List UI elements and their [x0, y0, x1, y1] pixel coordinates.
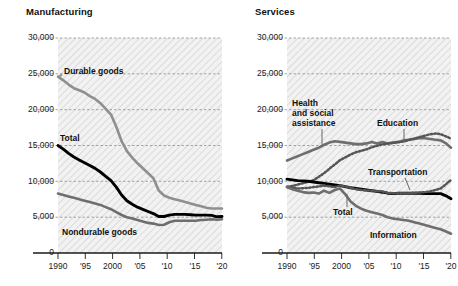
transportation-label: Transportation: [368, 168, 428, 178]
total-label: Total: [60, 134, 80, 144]
ylabel-15000: 15,000: [0, 141, 54, 150]
ylabel-5000: 5,000: [229, 212, 283, 221]
panel-manufacturing: Manufacturing: [0, 0, 229, 286]
ylabel-10000: 10,000: [229, 177, 283, 186]
total-label: Total: [333, 208, 353, 218]
xlabel-2000: 2000: [96, 262, 129, 271]
xlabel-05: '05: [355, 262, 383, 271]
nondurable-goods-label: Nondurable goods: [62, 228, 137, 238]
ylabel-5000: 5,000: [0, 212, 54, 221]
xlabel-2000: 2000: [325, 262, 358, 271]
health-label-line3: assistance: [292, 119, 335, 129]
xlabel-20: '20: [437, 262, 458, 271]
xlabel-15: '15: [410, 262, 438, 271]
ylabel-20000: 20,000: [0, 105, 54, 114]
xlabel-1990: 1990: [42, 262, 74, 271]
ylabel-30000: 30,000: [229, 33, 283, 42]
ylabel-20000: 20,000: [229, 105, 283, 114]
xlabel-1990: 1990: [271, 262, 303, 271]
ylabel-0: 0: [0, 248, 54, 257]
ylabel-0: 0: [229, 248, 283, 257]
ylabel-25000: 25,000: [229, 69, 283, 78]
xlabel-15: '15: [181, 262, 209, 271]
ylabel-30000: 30,000: [0, 33, 54, 42]
x-tick-marks: [287, 253, 451, 259]
xlabel-05: '05: [126, 262, 154, 271]
information-label: Information: [370, 231, 417, 241]
panel-services: Services: [229, 0, 458, 286]
durable-goods-label: Durable goods: [64, 67, 124, 77]
x-tick-marks: [58, 253, 222, 259]
xlabel-10: '10: [153, 262, 181, 271]
ylabel-25000: 25,000: [0, 69, 54, 78]
ylabel-10000: 10,000: [0, 177, 54, 186]
xlabel-10: '10: [382, 262, 410, 271]
education-label: Education: [377, 119, 418, 129]
ylabel-15000: 15,000: [229, 141, 283, 150]
two-panel-employment-chart: Manufacturing: [0, 0, 458, 286]
